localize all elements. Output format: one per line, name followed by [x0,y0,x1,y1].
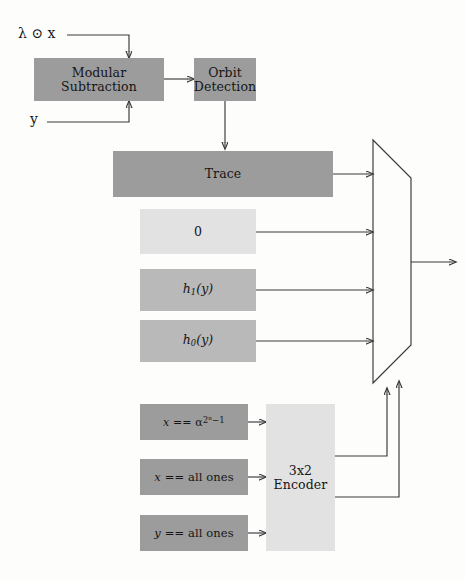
block-trace[interactable]: Trace [113,151,333,197]
block-zero[interactable]: 0 [140,209,256,254]
input-label-lambda-dot-x: λ ⊙ x [18,25,55,41]
cmp-y-all-ones-label: y == all ones [154,527,233,540]
zero-label: 0 [194,225,202,239]
modular-subtraction-line1: Modular [61,66,137,80]
mux-multiplexer[interactable] [373,140,411,383]
wire-encoder-sel0-to-mux [335,381,399,497]
trace-label: Trace [205,167,242,181]
orbit-detection-line1: Orbit [194,66,256,80]
block-modular-subtraction[interactable]: Modular Subtraction [34,58,164,101]
wire-y-to-modsub [47,101,129,122]
input-label-y: y [30,111,38,127]
h1-label: h1(y) [183,282,214,297]
encoder-line1: 3x2 [274,464,328,478]
block-cmp-x-all-ones[interactable]: x == all ones [140,459,248,495]
block-h1[interactable]: h1(y) [140,269,256,311]
block-h0[interactable]: h0(y) [140,320,256,362]
block-cmp-alpha[interactable]: x == α2n−1 [140,404,248,440]
wire-encoder-sel1-to-mux [335,388,387,456]
block-orbit-detection[interactable]: Orbit Detection [194,58,256,101]
modular-subtraction-line2: Subtraction [61,80,137,94]
cmp-alpha-label: x == α2n−1 [163,415,225,429]
block-encoder[interactable]: 3x2 Encoder [266,404,335,551]
encoder-line2: Encoder [274,478,328,492]
h0-label: h0(y) [183,333,214,348]
block-cmp-y-all-ones[interactable]: y == all ones [140,515,248,551]
wire-lambda-x-to-modsub [67,35,129,58]
diagram-canvas: λ ⊙ x y Modular Subtraction Orbit Detect… [0,0,465,581]
orbit-detection-line2: Detection [194,80,256,94]
cmp-x-all-ones-label: x == all ones [154,471,233,484]
